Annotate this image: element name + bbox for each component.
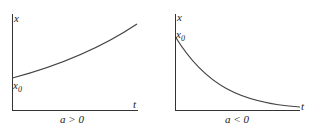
caption-growth: a > 0 [60, 113, 84, 125]
y-axis-label: x [176, 11, 182, 23]
panel-growth: x t x0 a > 0 [12, 12, 138, 125]
caption-decay: a < 0 [225, 113, 249, 125]
growth-curve [13, 24, 138, 78]
x-axis-label: t [133, 98, 137, 110]
panel-decay: x t x0 a < 0 [175, 11, 305, 125]
y-axis-label: x [13, 12, 19, 24]
intercept-label: x0 [175, 28, 185, 43]
intercept-label: x0 [12, 79, 22, 94]
x-axis-label: t [301, 100, 305, 112]
exponential-diagrams: x t x0 a > 0 x t x0 a < 0 [0, 0, 311, 128]
decay-curve [176, 37, 301, 107]
